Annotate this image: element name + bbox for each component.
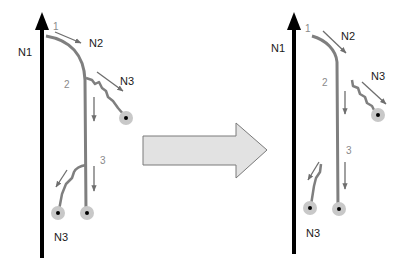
n1-axis-arrow bbox=[35, 12, 49, 258]
n3-upper-label-right: N3 bbox=[371, 70, 385, 82]
node-lower-main-r bbox=[332, 202, 346, 216]
n1-label-right: N1 bbox=[271, 42, 285, 54]
n3-lower-label: N3 bbox=[54, 231, 68, 243]
step-1-label-right: 1 bbox=[305, 23, 311, 34]
main-path-right bbox=[312, 36, 338, 210]
diagram-canvas: N1 1 N2 2 N3 3 N3 bbox=[0, 0, 403, 271]
step-3-label-right: 3 bbox=[346, 145, 352, 156]
right-panel: N1 1 N2 2 N3 3 N3 bbox=[271, 12, 386, 254]
node-upper-right bbox=[119, 111, 133, 125]
arrow-up-icon bbox=[287, 12, 301, 30]
n3-lower-branch bbox=[59, 165, 86, 210]
n3-upper-label: N3 bbox=[120, 75, 134, 87]
n3-lower-label-right: N3 bbox=[306, 227, 320, 239]
left-panel: N1 1 N2 2 N3 3 N3 bbox=[18, 12, 134, 258]
transition-arrow-icon bbox=[143, 123, 267, 178]
node-lower-left-r bbox=[303, 201, 317, 215]
node-lower-main bbox=[80, 206, 94, 220]
step-2-label-right: 2 bbox=[322, 77, 328, 88]
step-2-label: 2 bbox=[64, 79, 70, 90]
n1-axis-arrow-right bbox=[287, 12, 301, 254]
step-1-label: 1 bbox=[53, 21, 59, 32]
n1-label: N1 bbox=[18, 46, 32, 58]
node-upper-right-r bbox=[371, 108, 385, 122]
motion-arrow-1 bbox=[55, 32, 81, 43]
n3-upper-branch bbox=[86, 78, 124, 115]
step-3-label: 3 bbox=[100, 155, 106, 166]
arrow-up-icon bbox=[35, 12, 49, 30]
node-lower-left bbox=[51, 206, 65, 220]
n3-lower-segment-right bbox=[311, 164, 321, 205]
n2-label-right: N2 bbox=[341, 30, 355, 42]
n2-label: N2 bbox=[89, 37, 103, 49]
n3-upper-segment-right bbox=[352, 80, 375, 112]
